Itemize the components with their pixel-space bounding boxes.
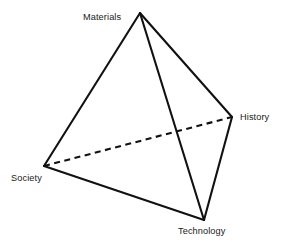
edge-society-technology [44, 166, 204, 220]
vertex-label-technology: Technology [178, 226, 225, 237]
tetrahedron-diagram: Materials History Society Technology [0, 0, 285, 246]
edge-history-technology [204, 117, 232, 220]
vertex-label-materials: Materials [83, 12, 121, 23]
vertex-label-society: Society [11, 173, 42, 184]
edge-materials-society [44, 13, 140, 166]
vertex-label-history: History [240, 112, 269, 123]
edge-materials-history [140, 13, 232, 117]
edge-society-history [44, 117, 232, 166]
edge-materials-technology [140, 13, 204, 220]
tetrahedron-svg [0, 0, 285, 246]
